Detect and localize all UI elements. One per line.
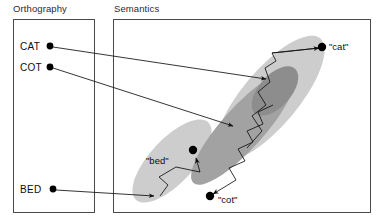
node-dot-cot xyxy=(47,64,54,71)
panel-title-semantics: Semantics xyxy=(114,3,159,14)
node-dot-sem-cat xyxy=(318,43,326,51)
arrow-cat-to-semantics xyxy=(53,47,266,79)
orthography-node-dots xyxy=(47,43,57,193)
arrow-cot-to-semantics xyxy=(53,68,233,126)
node-dot-sem-cot xyxy=(206,192,214,200)
orthography-label-bed: BED xyxy=(20,184,41,195)
panel-title-orthography: Orthography xyxy=(13,3,67,14)
orthography-label-cat: CAT xyxy=(20,41,40,52)
semantics-label-cot: "cot" xyxy=(218,194,237,205)
orthography-label-cot: COT xyxy=(20,62,42,73)
semantics-label-bed: "bed" xyxy=(146,155,169,166)
semantics-label-cat: "cat" xyxy=(329,41,348,52)
node-dot-bed xyxy=(50,186,57,193)
semantics-orthography-diagram xyxy=(0,0,382,224)
node-dot-sem-bed xyxy=(189,146,197,154)
node-dot-cat xyxy=(47,43,54,50)
